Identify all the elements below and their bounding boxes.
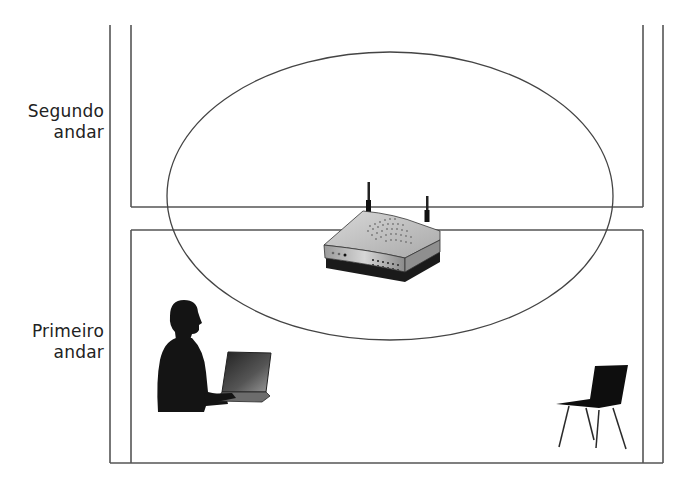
laptop-icon <box>204 352 271 404</box>
antenna-left <box>368 182 371 202</box>
floor-label-second-line1: Segundo <box>8 101 104 122</box>
antenna-right <box>426 196 429 212</box>
floor-label-first-line2: andar <box>8 342 104 363</box>
coverage-ellipse <box>167 52 613 340</box>
chair-icon <box>556 365 628 449</box>
floor-label-second-line2: andar <box>8 122 104 143</box>
floor-label-second: Segundo andar <box>8 101 104 143</box>
floor-label-first: Primeiro andar <box>8 321 104 363</box>
router-icon <box>324 182 440 282</box>
floor-label-first-line1: Primeiro <box>8 321 104 342</box>
building-diagram <box>0 0 683 482</box>
